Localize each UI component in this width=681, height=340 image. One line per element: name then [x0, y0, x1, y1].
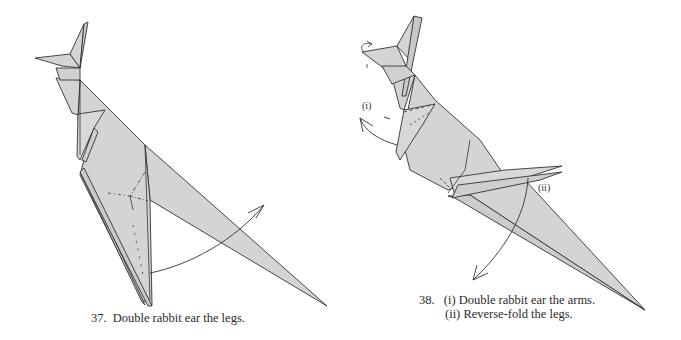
step-37-caption: 37.Double rabbit ear the legs. [91, 311, 245, 325]
step-38-caption: 38. (i) Double rabbit ear the arms. (ii)… [419, 293, 595, 321]
diagram-step-37 [0, 0, 340, 340]
label-ii: (ii) [538, 182, 550, 193]
instruction-label: (ii) [445, 307, 460, 321]
step-instruction: Double rabbit ear the arms. [459, 293, 595, 307]
kangaroo-figure-37 [0, 0, 340, 340]
label-i: (i) [362, 100, 371, 111]
step-number: 37. [91, 311, 107, 325]
step-number: 38. [419, 293, 435, 307]
fold-arrow-icon [360, 117, 397, 145]
kangaroo-figure-38 [340, 0, 681, 340]
step-instruction: Reverse-fold the legs. [463, 307, 572, 321]
step-instruction: Double rabbit ear the legs. [113, 311, 245, 325]
diagram-step-38: (i) (ii) [340, 0, 681, 340]
instruction-label: (i) [444, 293, 456, 307]
